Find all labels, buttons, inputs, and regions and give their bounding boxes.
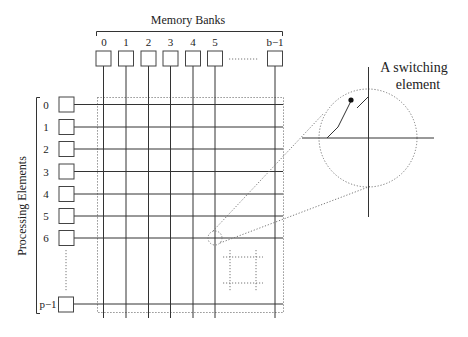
switch-contact: [357, 97, 368, 108]
pe-label-0: 0: [43, 99, 49, 111]
pe-label-5: 5: [43, 210, 49, 222]
pe-label-4: 4: [43, 188, 49, 200]
pe-box-1: [59, 120, 74, 135]
crossbar-diagram: Memory Banks 0 1 2 3 4 5 b−1: [0, 0, 468, 337]
bank-label-0: 0: [101, 36, 107, 48]
pe-box-2: [59, 142, 74, 157]
bank-label-3: 3: [168, 36, 174, 48]
bank-label-2: 2: [146, 36, 152, 48]
pe-box-0: [59, 97, 74, 112]
bank-label-last: b−1: [266, 36, 283, 48]
memory-bank-labels: 0 1 2 3 4 5 b−1: [101, 36, 283, 48]
bank-label-1: 1: [123, 36, 129, 48]
callout-line-2: element: [396, 77, 440, 92]
memory-bank-0: [96, 51, 111, 66]
bank-lines: [104, 66, 276, 318]
omitted-crosspoints: [223, 250, 263, 292]
bank-label-5: 5: [212, 36, 218, 48]
pe-label-last: p−1: [39, 298, 56, 310]
memory-bank-last: [268, 51, 283, 66]
pe-box-5: [59, 209, 74, 224]
switch-pivot-dot: [348, 97, 353, 102]
pe-box-3: [59, 164, 74, 179]
callout-line-1: A switching: [380, 60, 447, 75]
memory-banks-title: Memory Banks: [151, 13, 226, 27]
pe-label-3: 3: [43, 166, 49, 178]
pe-label-1: 1: [43, 121, 49, 133]
pe-boxes: [59, 97, 75, 312]
memory-bank-boxes: [96, 51, 283, 66]
pe-lines: [74, 105, 283, 305]
bank-label-4: 4: [190, 36, 196, 48]
pe-label-6: 6: [43, 232, 49, 244]
memory-bank-2: [141, 51, 156, 66]
magnify-line-lower: [220, 186, 371, 243]
pe-box-last: [59, 297, 74, 312]
memory-bank-3: [163, 51, 178, 66]
memory-bank-1: [119, 51, 134, 66]
pe-box-4: [59, 187, 74, 202]
memory-bank-4: [186, 51, 201, 66]
processing-elements-bracket: [37, 98, 41, 314]
processing-elements-title: Processing Elements: [15, 156, 29, 256]
pe-labels: 0 1 2 3 4 5 6 p−1: [39, 99, 56, 311]
memory-bank-5: [208, 51, 223, 66]
pe-label-2: 2: [43, 143, 49, 155]
pe-box-6: [59, 231, 74, 246]
switch-lever: [327, 101, 351, 138]
